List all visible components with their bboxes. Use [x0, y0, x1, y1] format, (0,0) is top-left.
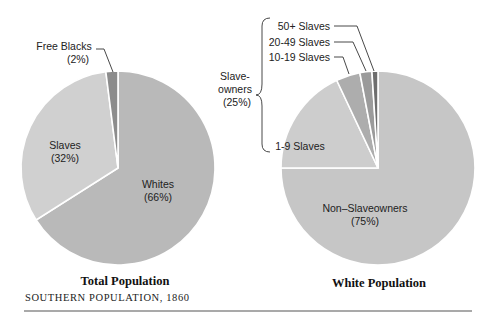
leader-20-49 [334, 42, 366, 71]
label-non-slaveowners: Non–Slaveowners [322, 202, 407, 214]
label-non-slaveowners-pct: (75%) [351, 215, 379, 227]
leader-10-19 [334, 57, 349, 74]
figure-caption: SOUTHERN POPULATION, 1860 [25, 292, 190, 303]
title-total-population: Total Population [81, 274, 170, 288]
pie-white-population [281, 71, 475, 265]
title-white-population: White Population [332, 276, 426, 290]
label-free-blacks: Free Blacks [36, 40, 91, 52]
label-slaveowners-line1: Slave- [220, 70, 250, 82]
label-20-49-slaves: 20-49 Slaves [269, 36, 330, 48]
label-whites: Whites [142, 178, 174, 190]
label-slaves: Slaves [49, 139, 81, 151]
leader-50plus [334, 26, 374, 71]
label-whites-pct: (66%) [144, 191, 172, 203]
label-free-blacks-pct: (2%) [67, 53, 89, 65]
label-slaveowners-pct: (25%) [223, 96, 251, 108]
label-1-9-slaves: 1-9 Slaves [275, 140, 325, 152]
label-50plus-slaves: 50+ Slaves [278, 20, 330, 32]
leader-free-blacks [96, 49, 113, 72]
label-10-19-slaves: 10-19 Slaves [269, 51, 330, 63]
pie-total-population [21, 71, 215, 265]
label-slaveowners-line2: owners [218, 83, 252, 95]
chart-canvas: Free Blacks (2%) Slaves (32%) Whites (66… [0, 0, 496, 321]
label-slaves-pct: (32%) [51, 152, 79, 164]
